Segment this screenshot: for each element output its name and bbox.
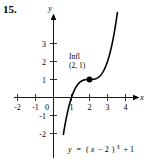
- y-tick-label-neg1: -1: [39, 112, 46, 121]
- y-axis-label: y: [47, 4, 52, 13]
- y-tick-label-2: 2: [42, 58, 46, 67]
- x-axis-label: x: [139, 93, 144, 102]
- equation-open-paren: (: [86, 145, 89, 154]
- equation-exponent: 3: [117, 144, 120, 150]
- inflection-label-line1: Infl: [69, 52, 80, 61]
- x-tick-label-3: 3: [106, 103, 110, 112]
- equation-var: x: [90, 145, 95, 154]
- x-tick-label-2: 2: [88, 103, 92, 112]
- inflection-point-marker: [87, 77, 93, 83]
- equation-minus-two: − 2: [98, 145, 109, 154]
- x-tick-label-neg2: -2: [14, 103, 21, 112]
- equation-lhs: y: [67, 145, 72, 154]
- figure-container: 15. y x -2 -1 0 1 2 3 4: [0, 0, 147, 162]
- y-axis-arrow: [51, 14, 57, 21]
- x-axis-arrow: [133, 95, 140, 101]
- inflection-label-line2: (2, 1): [69, 61, 86, 70]
- cubic-curve: [63, 12, 117, 134]
- x-tick-label-4: 4: [124, 103, 128, 112]
- y-tick-label-neg2: -2: [39, 130, 46, 139]
- x-tick-label-neg1: -1: [32, 103, 39, 112]
- svg-text:y = (: y = ( x − 2 ) 3 + 1: [67, 142, 134, 154]
- equation-close-paren: ): [112, 145, 115, 154]
- equation-equals: =: [77, 145, 82, 154]
- y-tick-label-3: 3: [42, 40, 46, 49]
- equation-plus-one: + 1: [124, 145, 135, 154]
- graph-plot: y x -2 -1 0 1 2 3 4 3 2 1 -1 -2: [0, 0, 147, 162]
- y-tick-label-1: 1: [42, 76, 46, 85]
- equation-label: y = ( x − 2 ) 3 + 1: [67, 142, 134, 154]
